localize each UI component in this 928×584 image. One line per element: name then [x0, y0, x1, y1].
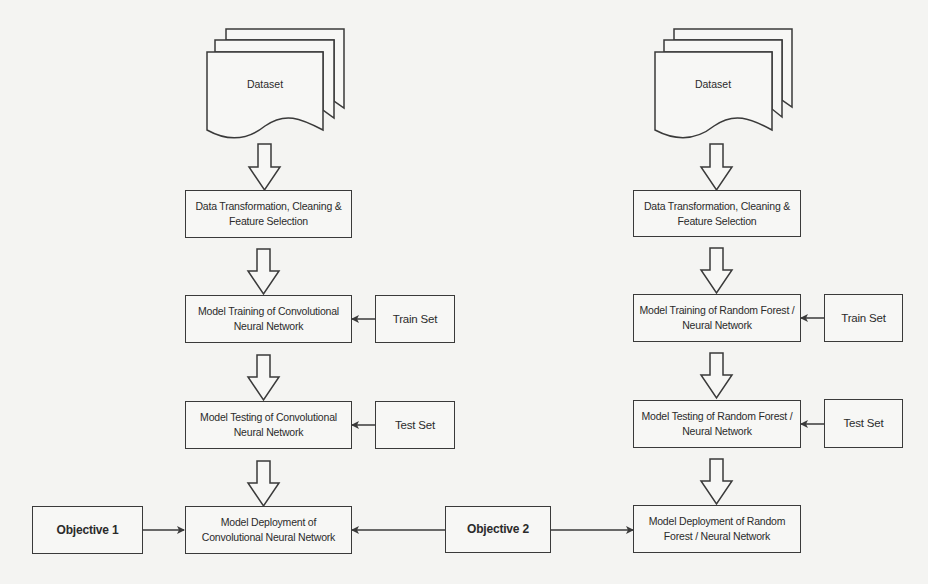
training-label: Model Training of Random Forest / Neural… — [637, 303, 797, 333]
train-set-label: Train Set — [393, 312, 437, 327]
preprocess-label: Data Transformation, Cleaning & Feature … — [189, 199, 348, 229]
down-arrow-icon — [701, 353, 732, 398]
train-set-box-right: Train Set — [824, 294, 903, 342]
down-arrow-icon — [248, 355, 279, 400]
test-set-box-right: Test Set — [824, 399, 903, 448]
testing-box-left: Model Testing of Convolutional Neural Ne… — [185, 401, 352, 449]
down-arrow-icon — [248, 461, 279, 506]
preprocess-label: Data Transformation, Cleaning & Feature … — [637, 199, 797, 229]
objective-2-label: Objective 2 — [467, 522, 529, 537]
objective-2-box: Objective 2 — [445, 506, 551, 553]
down-arrow-icon — [701, 144, 732, 190]
testing-box-right: Model Testing of Random Forest / Neural … — [633, 400, 801, 448]
deployment-box-left: Model Deployment of Convolutional Neural… — [185, 506, 352, 554]
testing-label: Model Testing of Convolutional Neural Ne… — [189, 410, 348, 440]
down-arrow-icon — [701, 248, 732, 293]
deployment-label: Model Deployment of Convolutional Neural… — [189, 515, 348, 545]
preprocess-box-left: Data Transformation, Cleaning & Feature … — [185, 190, 352, 238]
test-set-box-left: Test Set — [375, 401, 455, 449]
training-label: Model Training of Convolutional Neural N… — [189, 304, 348, 334]
objective-1-label: Objective 1 — [57, 523, 119, 538]
deployment-label: Model Deployment of Random Forest / Neur… — [637, 514, 797, 544]
deployment-box-right: Model Deployment of Random Forest / Neur… — [633, 505, 801, 553]
down-arrow-icon — [701, 459, 732, 504]
train-set-label: Train Set — [841, 311, 885, 326]
down-arrow-icon — [249, 144, 280, 190]
test-set-label: Test Set — [395, 418, 435, 433]
training-box-left: Model Training of Convolutional Neural N… — [185, 295, 352, 343]
dataset-label-right: Dataset — [655, 78, 771, 90]
test-set-label: Test Set — [844, 416, 884, 431]
dataset-label-left: Dataset — [207, 78, 323, 90]
connectors-layer — [0, 0, 928, 584]
preprocess-box-right: Data Transformation, Cleaning & Feature … — [633, 190, 801, 237]
objective-1-box: Objective 1 — [32, 506, 143, 554]
down-arrow-icon — [248, 249, 279, 294]
train-set-box-left: Train Set — [375, 295, 455, 343]
testing-label: Model Testing of Random Forest / Neural … — [637, 409, 797, 439]
training-box-right: Model Training of Random Forest / Neural… — [633, 294, 801, 342]
